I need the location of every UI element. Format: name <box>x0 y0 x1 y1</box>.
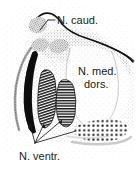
horizontal-striped-nucleus <box>56 80 76 127</box>
label-medial-dorsal-line2: dors. <box>84 78 108 90</box>
figure-canvas: N. caud. N. med. dors. N. ventr. <box>0 0 136 171</box>
label-caudate: N. caud. <box>57 14 98 26</box>
label-ventral: N. ventr. <box>19 150 60 162</box>
anatomical-figure: N. caud. N. med. dors. N. ventr. <box>0 0 136 171</box>
label-medial-dorsal-line1: N. med. <box>78 65 117 77</box>
